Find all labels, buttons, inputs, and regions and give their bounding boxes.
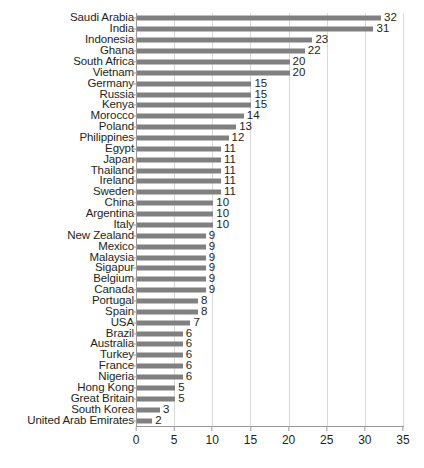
x-tick-mark (326, 427, 327, 431)
bar (137, 92, 251, 97)
bar (137, 266, 206, 271)
bar (137, 385, 175, 390)
bar (137, 114, 244, 119)
bar-row: Ghana22 (0, 46, 424, 57)
y-axis-tick (132, 409, 136, 410)
bar (137, 255, 206, 260)
bar-chart: Saudi Arabia32India31Indonesia23Ghana22S… (0, 0, 424, 468)
bar (137, 179, 221, 184)
bar (137, 16, 381, 21)
bar-row: Portugal8 (0, 296, 424, 307)
y-axis-tick (132, 192, 136, 193)
x-tick-15: 15 (244, 427, 257, 446)
bar-value-label: 2 (155, 415, 161, 427)
x-tick-label: 10 (206, 434, 219, 446)
y-axis-tick (132, 61, 136, 62)
x-tick-10: 10 (206, 427, 219, 446)
bar-row: Spain8 (0, 306, 424, 317)
y-axis-tick (132, 311, 136, 312)
x-axis-ticks: 05101520253035 (136, 427, 403, 457)
bar-row: Turkey6 (0, 350, 424, 361)
x-tick-mark (174, 427, 175, 431)
bar (137, 157, 221, 162)
bar (137, 418, 152, 423)
bar-row: Argentina10 (0, 209, 424, 220)
bar-row: Canada9 (0, 285, 424, 296)
y-axis-tick (132, 398, 136, 399)
y-axis-tick (132, 377, 136, 378)
bar-row: Vietnam20 (0, 67, 424, 78)
bar-row: Great Britain5 (0, 393, 424, 404)
bar-value-label: 5 (178, 393, 184, 405)
y-axis-tick (132, 224, 136, 225)
bar-row: Indonesia23 (0, 35, 424, 46)
bar (137, 212, 213, 217)
bar-row: India31 (0, 24, 424, 35)
bar-value-label: 8 (201, 306, 207, 318)
x-tick-25: 25 (320, 427, 333, 446)
x-tick-label: 15 (244, 434, 257, 446)
y-axis-tick (132, 344, 136, 345)
bar-row: Poland13 (0, 122, 424, 133)
bar (137, 146, 221, 151)
x-tick-35: 35 (396, 427, 409, 446)
bar-row: China10 (0, 198, 424, 209)
bar-value-label: 20 (293, 67, 306, 79)
bar (137, 320, 190, 325)
bar (137, 277, 206, 282)
bar-row: Ireland11 (0, 176, 424, 187)
bar-value-label: 9 (209, 284, 215, 296)
y-axis-tick (132, 355, 136, 356)
bar-value-label: 31 (376, 23, 389, 35)
bar-value-label: 22 (308, 45, 321, 57)
bar-row: Philippines12 (0, 133, 424, 144)
y-axis-tick (132, 51, 136, 52)
y-axis-tick (132, 94, 136, 95)
bar-rows: Saudi Arabia32India31Indonesia23Ghana22S… (0, 13, 424, 426)
bar (137, 201, 213, 206)
x-tick-5: 5 (171, 427, 178, 446)
y-axis-tick (132, 127, 136, 128)
bar-value-label: 6 (186, 371, 192, 383)
bar (137, 49, 305, 54)
x-tick-label: 5 (171, 434, 178, 446)
bar (137, 342, 183, 347)
y-axis-tick (132, 333, 136, 334)
y-axis-tick (132, 18, 136, 19)
y-axis-tick (132, 29, 136, 30)
bar-value-label: 3 (163, 404, 169, 416)
bar-row: Australia6 (0, 339, 424, 350)
bar (137, 222, 213, 227)
bar-value-label: 10 (216, 219, 229, 231)
x-tick-mark (250, 427, 251, 431)
y-axis-tick (132, 72, 136, 73)
y-axis-tick (132, 137, 136, 138)
y-axis-tick (132, 387, 136, 388)
y-axis-tick (132, 83, 136, 84)
x-tick-20: 20 (282, 427, 295, 446)
bar-row: Morocco14 (0, 111, 424, 122)
bar (137, 309, 198, 314)
bar (137, 27, 373, 32)
bar (137, 244, 206, 249)
y-axis-tick (132, 279, 136, 280)
bar (137, 331, 183, 336)
bar (137, 38, 312, 43)
bar (137, 70, 290, 75)
bar (137, 135, 229, 140)
y-axis-tick (132, 268, 136, 269)
bar (137, 59, 290, 64)
y-axis-tick (132, 159, 136, 160)
x-tick-label: 25 (320, 434, 333, 446)
bar (137, 81, 251, 86)
y-axis-tick (132, 420, 136, 421)
y-axis-tick (132, 235, 136, 236)
x-tick-0: 0 (133, 427, 140, 446)
x-tick-label: 35 (396, 434, 409, 446)
bar (137, 233, 206, 238)
x-tick-label: 0 (133, 434, 140, 446)
bar-row: Saudi Arabia32 (0, 13, 424, 24)
x-tick-label: 20 (282, 434, 295, 446)
bar (137, 407, 160, 412)
bar-row: Kenya15 (0, 100, 424, 111)
